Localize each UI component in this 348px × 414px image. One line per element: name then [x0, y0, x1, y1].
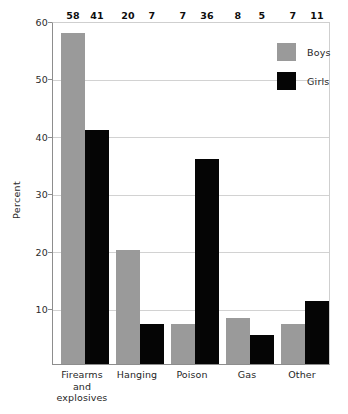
- bar-value-poison-girls: 36: [200, 10, 214, 21]
- bar-value-firearms-girls: 41: [90, 10, 104, 21]
- x-label-firearms-line3: explosives: [28, 392, 136, 404]
- legend-item-girls[interactable]: Girls: [277, 72, 331, 90]
- legend-label-boys: Boys: [307, 47, 331, 58]
- y-tick-label-10: 10: [8, 304, 48, 315]
- bar-chart: Percent 60 50 40 30 20 10 58 41: [0, 0, 348, 414]
- bar-firearms-girls[interactable]: [85, 130, 109, 364]
- bar-gas-girls[interactable]: [250, 335, 274, 364]
- bar-value-hanging-boys: 20: [121, 10, 135, 21]
- y-tick-label-60: 60: [8, 17, 48, 28]
- bar-other-boys[interactable]: [281, 324, 305, 364]
- bar-wrap-firearms-boys: 58: [61, 23, 85, 364]
- bar-value-other-boys: 7: [290, 10, 297, 21]
- bar-wrap-poison-boys: 7: [171, 23, 195, 364]
- bar-wrap-poison-girls: 36: [195, 23, 219, 364]
- bar-other-girls[interactable]: [305, 301, 329, 364]
- legend-swatch-boys-icon: [277, 43, 296, 61]
- legend-item-boys[interactable]: Boys: [277, 43, 331, 61]
- bar-firearms-boys[interactable]: [61, 33, 85, 364]
- bar-wrap-gas-boys: 8: [226, 23, 250, 364]
- bar-wrap-hanging-boys: 20: [116, 23, 140, 364]
- y-tick-label-30: 30: [8, 189, 48, 200]
- bar-group-gas: 8 5: [222, 23, 278, 364]
- bar-poison-boys[interactable]: [171, 324, 195, 364]
- bar-group-firearms: 58 41: [57, 23, 113, 364]
- x-label-other: Other: [248, 369, 348, 381]
- bar-value-hanging-girls: 7: [149, 10, 156, 21]
- bar-wrap-hanging-girls: 7: [140, 23, 164, 364]
- bar-value-gas-girls: 5: [259, 10, 266, 21]
- bar-poison-girls[interactable]: [195, 159, 219, 364]
- y-tick-label-50: 50: [8, 74, 48, 85]
- legend-label-girls: Girls: [307, 76, 330, 87]
- bar-value-poison-boys: 7: [180, 10, 187, 21]
- bar-value-gas-boys: 8: [235, 10, 242, 21]
- legend: Boys Girls: [277, 43, 331, 101]
- bar-value-firearms-boys: 58: [66, 10, 80, 21]
- bar-group-poison: 7 36: [167, 23, 223, 364]
- bar-group-hanging: 20 7: [112, 23, 168, 364]
- y-axis-title: Percent: [11, 165, 22, 235]
- legend-swatch-girls-icon: [277, 72, 296, 90]
- bar-wrap-firearms-girls: 41: [85, 23, 109, 364]
- y-tick-label-40: 40: [8, 132, 48, 143]
- bar-gas-boys[interactable]: [226, 318, 250, 364]
- y-tick-label-20: 20: [8, 247, 48, 258]
- bar-wrap-gas-girls: 5: [250, 23, 274, 364]
- bar-value-other-girls: 11: [310, 10, 324, 21]
- plot-area: 58 41 20 7 7: [52, 22, 330, 365]
- x-label-firearms-line2: and: [28, 381, 136, 393]
- bar-hanging-girls[interactable]: [140, 324, 164, 364]
- bar-hanging-boys[interactable]: [116, 250, 140, 364]
